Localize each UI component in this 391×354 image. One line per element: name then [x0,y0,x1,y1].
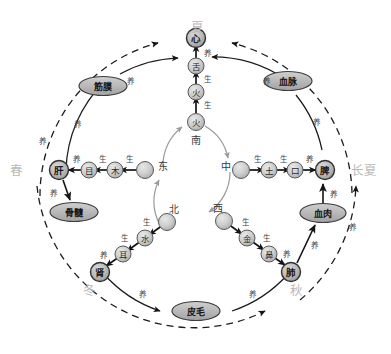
node-direction-east [137,162,154,179]
inner-arc-south-to-center [205,126,228,158]
node-element-metal: 金 [239,230,255,246]
node-sense-mouth: 口 [287,162,303,178]
node-direction-north [159,214,176,231]
edge-label-earth-1: 生 [254,154,262,164]
edge-label-fire-1: 生 [204,100,212,110]
node-element-water: 水 [137,230,153,246]
edge-label-fire-3: 养 [204,48,212,58]
edge-label-water-1: 生 [143,217,151,227]
edge-label-heart-to-vessels: 养 [313,117,321,127]
node-direction-center [233,162,250,179]
edge-label-fascia-to-heart: 养 [74,119,82,129]
node-sense-nose: 鼻 [261,246,277,262]
direction-east-label: 东 [158,160,168,172]
sense-nose-label: 鼻 [265,250,274,260]
organ-lung-label: 肺 [285,267,296,278]
node-tissue-fascia: 筋膜 [79,77,127,96]
tissue-flesh-label: 血肉 [314,208,332,219]
edge-label-lung-to-flesh: 养 [311,240,319,250]
node-element-wood: 木 [107,162,123,178]
edge-label-outer-bottom-left: 养 [39,136,47,146]
node-tissue-skin: 皮毛 [172,302,220,321]
direction-south-disc-label: 火 [192,118,201,128]
organ-spleen-label: 脾 [319,165,330,176]
tissue-skin-label: 皮毛 [186,306,205,317]
edge-label-water-3: 养 [100,250,108,260]
node-direction-west [216,213,233,230]
node-sense-ear: 耳 [115,246,131,262]
edge-label-earth-2: 生 [280,154,288,164]
edge-label-water-2: 生 [121,233,129,243]
organ-kidney-label: 肾 [95,267,105,278]
edge-label-metal-1: 生 [242,217,250,227]
direction-north-label: 北 [169,204,179,215]
element-water-label: 水 [141,234,150,244]
element-fire-label: 火 [192,88,201,98]
edge-label-outer-right: 养 [263,76,271,86]
edge-label-outer-bottom-right: 养 [349,222,357,232]
direction-south-label: 南 [191,134,201,146]
direction-center-label: 中 [221,160,231,172]
node-element-fire: 火 [188,84,204,100]
direction-west-label: 西 [213,203,223,214]
season-spring-label: 春 [10,163,23,178]
edge-label-outer-left: 养 [127,76,135,86]
edge-label-liver-to-marrow: 养 [50,188,58,198]
sense-eye-label: 目 [85,166,94,176]
edge-label-wood-1: 生 [126,154,134,164]
organ-heart-label: 心 [191,33,201,44]
arc-kidney-to-skin [103,273,160,311]
node-sense-tongue: 舌 [188,58,204,74]
node-sense-eye: 目 [81,162,97,178]
five-element-diagram: 火 舌 火 木 目 土 口 金 鼻 [0,0,391,354]
season-summer-label: 夏 [191,20,204,35]
arc-skin-to-lung [232,274,288,311]
outer-arc-autumn-to-latesummer [300,186,356,300]
sense-ear-label: 耳 [119,250,128,260]
edge-label-wood-3: 养 [73,154,81,164]
season-late-summer-label: 长夏 [351,163,377,178]
arc-fascia-to-heart [120,58,178,74]
edge-label-metal-3: 养 [283,249,291,259]
sense-tongue-label: 舌 [192,62,201,72]
node-tissue-vessels: 血脉 [264,72,312,91]
tissue-fascia-label: 筋膜 [93,81,113,92]
chain-water [106,225,163,266]
tissue-vessels-label: 血脉 [279,76,298,87]
edge-label-wood-2: 生 [99,154,107,164]
node-organ-lung: 肺 [282,263,301,282]
edge-label-earth-3: 养 [306,154,314,164]
element-metal-label: 金 [243,234,252,244]
node-organ-liver: 肝 [50,161,69,180]
edge-label-metal-2: 生 [263,233,271,243]
chain-metal [228,224,285,265]
edge-label-spleen-to-flesh: 养 [330,189,338,199]
edge-liver-to-marrow [63,180,70,200]
node-element-earth: 土 [261,162,277,178]
edge-label-skin-to-lung: 养 [249,289,257,299]
node-organ-kidney: 肾 [91,263,110,282]
element-earth-label: 土 [265,166,274,176]
edge-label-fire-2: 生 [204,74,212,84]
element-wood-label: 木 [111,166,120,176]
organ-liver-label: 肝 [54,165,64,176]
node-tissue-marrow: 骨髓 [50,203,98,222]
node-direction-south: 火 [188,114,205,131]
node-tissue-flesh: 血肉 [300,204,346,223]
edge-label-kidney-to-skin: 养 [139,289,147,299]
season-autumn-label: 秋 [290,283,303,298]
season-winter-label: 冬 [83,283,96,298]
tissue-marrow-label: 骨髓 [65,207,84,218]
node-organ-spleen: 脾 [316,161,335,180]
sense-mouth-label: 口 [291,166,300,176]
